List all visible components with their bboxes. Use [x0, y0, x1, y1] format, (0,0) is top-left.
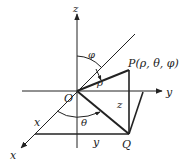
diagram-canvas: z y x x y z O φ θ ρ P(ρ, θ, φ) Q	[0, 0, 189, 164]
rho-label: ρ	[96, 77, 103, 88]
y-coord-label: y	[92, 136, 100, 149]
point-p-label: P(ρ, θ, φ)	[127, 57, 179, 70]
rho-segment	[77, 70, 129, 91]
z-coord-label: z	[116, 99, 123, 110]
origin-label: O	[64, 92, 73, 105]
phi-label: φ	[88, 49, 95, 60]
point-q-label: Q	[122, 138, 131, 151]
spherical-coordinates-diagram: z y x x y z O φ θ ρ P(ρ, θ, φ) Q	[0, 0, 189, 164]
x-axis-label: x	[10, 149, 17, 162]
x-coord-segment	[129, 92, 143, 134]
z-axis-label: z	[72, 3, 79, 14]
y-axis-label: y	[165, 86, 173, 99]
theta-arc	[57, 111, 100, 117]
theta-label: θ	[81, 117, 87, 128]
x-coord-label: x	[34, 116, 41, 129]
